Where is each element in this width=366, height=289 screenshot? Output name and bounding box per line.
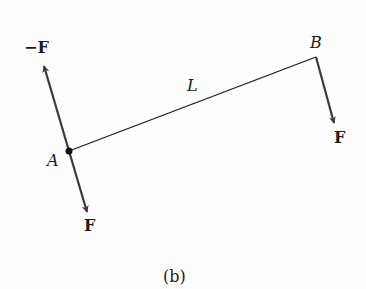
point-b-label: B (310, 35, 322, 51)
neg-force-label: −F (24, 40, 49, 56)
force-arrow-a (69, 151, 87, 212)
rod-line (69, 57, 316, 151)
force-b-label: F (334, 130, 345, 146)
point-a-label: A (47, 153, 59, 169)
point-a-dot (66, 148, 73, 155)
neg-force-arrow (44, 66, 69, 151)
figure-caption: (b) (163, 269, 186, 285)
length-label: L (187, 78, 198, 94)
force-a-label: F (84, 218, 95, 234)
force-arrow-b (316, 57, 334, 123)
force-couple-diagram: −F A F L B F (b) (0, 0, 366, 289)
